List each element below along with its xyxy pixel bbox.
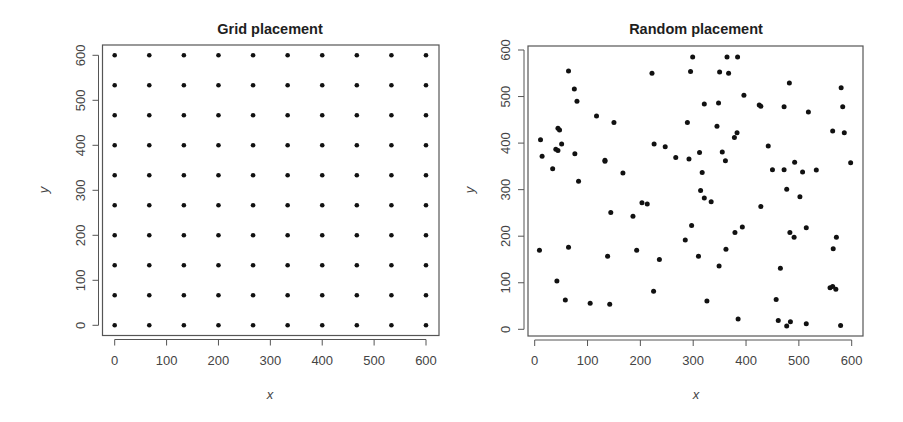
data-point [355, 263, 360, 268]
data-point [182, 263, 187, 268]
data-point [251, 53, 256, 58]
data-point [389, 233, 394, 238]
data-point [774, 297, 779, 302]
data-point [182, 233, 187, 238]
data-point [112, 263, 117, 268]
data-point [112, 293, 117, 298]
data-point [112, 83, 117, 88]
data-point [726, 71, 731, 76]
data-point [389, 53, 394, 58]
data-point [657, 257, 662, 262]
y-tick-label: 300 [73, 179, 88, 201]
x-tick-label: 400 [735, 353, 757, 368]
data-point [112, 143, 117, 148]
data-point [787, 230, 792, 235]
y-tick-label: 500 [498, 86, 513, 108]
data-point [355, 143, 360, 148]
data-point [285, 323, 290, 328]
data-point [689, 223, 694, 228]
data-point [355, 203, 360, 208]
data-point [320, 83, 325, 88]
data-point [147, 323, 152, 328]
data-point [572, 87, 577, 92]
random-placement-panel: Random placement 0100200300400500600 010… [462, 21, 863, 402]
data-point [216, 173, 221, 178]
data-point [788, 319, 793, 324]
data-point [770, 167, 775, 172]
data-point [182, 83, 187, 88]
y-tick-label: 200 [73, 224, 88, 246]
data-point [389, 263, 394, 268]
data-point [424, 323, 429, 328]
y-tick-label: 600 [498, 39, 513, 61]
data-point [608, 210, 613, 215]
data-point [251, 293, 256, 298]
data-point [723, 158, 728, 163]
data-point [714, 124, 719, 129]
data-point [702, 196, 707, 201]
data-point [112, 323, 117, 328]
data-point [683, 237, 688, 242]
data-point [355, 113, 360, 118]
data-point [182, 53, 187, 58]
data-point [251, 113, 256, 118]
data-point [147, 173, 152, 178]
data-point [320, 233, 325, 238]
data-point [566, 68, 571, 73]
data-point [690, 54, 695, 59]
data-point [112, 233, 117, 238]
data-point [355, 233, 360, 238]
random-plot-frame [528, 46, 863, 336]
y-tick-label: 100 [73, 269, 88, 291]
data-point [216, 323, 221, 328]
data-point [355, 323, 360, 328]
data-point [355, 293, 360, 298]
data-point [782, 104, 787, 109]
x-tick-label: 500 [363, 353, 385, 368]
data-point [651, 289, 656, 294]
data-point [320, 53, 325, 58]
x-tick-label: 300 [259, 353, 281, 368]
data-point [182, 143, 187, 148]
data-point [563, 297, 568, 302]
data-point [645, 202, 650, 207]
data-point [787, 81, 792, 86]
data-point [389, 113, 394, 118]
data-point [285, 203, 290, 208]
grid-x-axis: 0100200300400500600 [111, 340, 437, 368]
data-point [673, 155, 678, 160]
data-point [725, 54, 730, 59]
data-point [814, 168, 819, 173]
grid-y-axis: 0100200300400500600 [73, 44, 99, 328]
data-point [566, 245, 571, 250]
x-tick-label: 500 [788, 353, 810, 368]
data-point [320, 263, 325, 268]
y-tick-label: 300 [498, 179, 513, 201]
grid-y-axis-label: y [36, 185, 51, 194]
data-point [732, 135, 737, 140]
data-point [285, 143, 290, 148]
data-point [424, 83, 429, 88]
data-point [834, 235, 839, 240]
data-point [424, 143, 429, 148]
data-point [182, 113, 187, 118]
x-tick-label: 400 [311, 353, 333, 368]
data-point [285, 173, 290, 178]
data-point [792, 160, 797, 165]
data-point [848, 160, 853, 165]
data-point [697, 150, 702, 155]
data-point [251, 173, 256, 178]
data-point [605, 254, 610, 259]
data-point [424, 173, 429, 178]
data-point [611, 120, 616, 125]
data-point [838, 323, 843, 328]
data-point [842, 130, 847, 135]
data-point [112, 113, 117, 118]
data-point [355, 173, 360, 178]
data-point [251, 263, 256, 268]
data-point [634, 248, 639, 253]
data-point [389, 143, 394, 148]
random-y-axis: 0100200300400500600 [498, 39, 524, 333]
x-tick-label: 200 [630, 353, 652, 368]
data-point [216, 83, 221, 88]
